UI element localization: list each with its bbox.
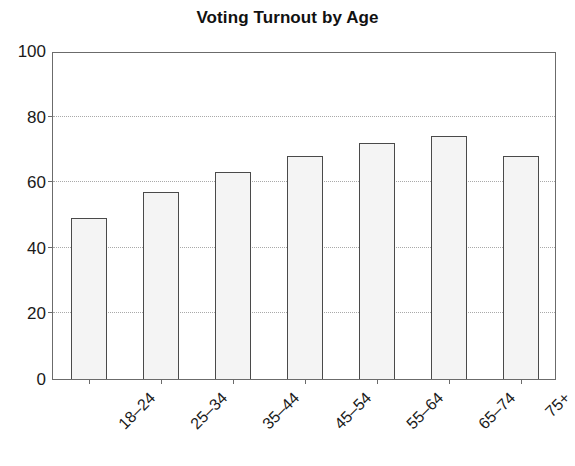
x-axis-tick-label: 45–54 — [331, 389, 375, 433]
x-axis-tick-label: 55–64 — [403, 389, 447, 433]
y-axis-tick-label: 60 — [2, 174, 46, 191]
bar — [143, 192, 179, 379]
bar-chart-figure: Voting Turnout by Age 020406080100 18–24… — [0, 0, 575, 466]
y-tick-mark — [48, 181, 53, 182]
bar — [431, 136, 467, 379]
y-tick-mark — [48, 116, 53, 117]
bar — [215, 172, 251, 379]
x-axis-tick-label: 75+ — [542, 389, 574, 421]
gridline — [53, 116, 555, 117]
x-axis-tick-label: 25–34 — [187, 389, 231, 433]
bar — [359, 143, 395, 379]
y-axis-tick-label: 100 — [2, 43, 46, 60]
x-axis-tick-label: 35–44 — [259, 389, 303, 433]
bar — [71, 218, 107, 379]
y-axis-tick-label: 0 — [2, 371, 46, 388]
bar — [287, 156, 323, 379]
x-axis-tick-label: 65–74 — [475, 389, 519, 433]
x-axis: 18–2425–3435–4445–5455–6465–7475+ — [52, 381, 556, 466]
bar — [503, 156, 539, 379]
y-axis-tick-label: 20 — [2, 305, 46, 322]
plot-area — [52, 52, 556, 380]
x-axis-tick-label: 18–24 — [115, 389, 159, 433]
y-tick-mark — [48, 247, 53, 248]
y-tick-mark — [48, 312, 53, 313]
y-axis-tick-label: 40 — [2, 240, 46, 257]
y-axis-tick-label: 80 — [2, 109, 46, 126]
y-axis: 020406080100 — [0, 0, 46, 466]
chart-title: Voting Turnout by Age — [0, 8, 575, 28]
